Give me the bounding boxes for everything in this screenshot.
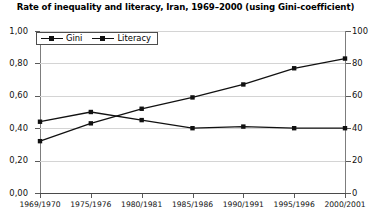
chart-container: Rate of inequality and literacy, Iran, 1… [0, 0, 371, 214]
y-axis-right-tick-mark [346, 31, 351, 32]
y-axis-left-tick-label: 1,00 [9, 26, 28, 36]
data-point-marker [38, 120, 42, 124]
y-axis-left-tick-label: 0,40 [9, 123, 28, 133]
legend-line-marker-icon [92, 35, 114, 42]
x-axis-tick-mark [40, 194, 41, 198]
y-axis-left-tick-label: 0,60 [9, 90, 28, 100]
x-axis-tick-mark [345, 194, 346, 198]
y-axis-right-tick-mark [346, 161, 351, 162]
legend-line-marker-icon [41, 35, 63, 42]
x-axis-tick-mark [142, 194, 143, 198]
data-point-marker [89, 110, 93, 114]
y-axis-right-tick-label: 80 [352, 58, 363, 68]
y-axis-right-line [345, 31, 346, 194]
data-point-marker [139, 107, 143, 111]
y-axis-right-tick-label: 100 [352, 26, 368, 36]
data-point-marker [139, 118, 143, 122]
y-axis-left-tick-label: 0,20 [9, 155, 28, 165]
data-point-marker [292, 126, 296, 130]
data-point-marker [292, 66, 296, 70]
x-axis-tick-label: 1975/1976 [70, 200, 111, 209]
y-axis-right-tick-label: 40 [352, 123, 363, 133]
x-axis-tick-label: 1980/1981 [121, 200, 162, 209]
plot-area [40, 31, 345, 193]
chart-title: Rate of inequality and literacy, Iran, 1… [0, 2, 371, 12]
data-point-marker [241, 82, 245, 86]
series-lines [40, 31, 345, 193]
x-axis-tick-label: 1990/1991 [223, 200, 264, 209]
y-axis-right-tick-mark [346, 96, 351, 97]
x-axis-tick-mark [243, 194, 244, 198]
x-axis-tick-label: 1995/1996 [274, 200, 315, 209]
x-axis-tick-mark [294, 194, 295, 198]
y-axis-right-tick-label: 20 [352, 155, 363, 165]
y-axis-right-tick-label: 60 [352, 90, 363, 100]
x-axis-tick-label: 1969/1970 [19, 200, 60, 209]
data-point-marker [241, 124, 245, 128]
data-point-marker [190, 126, 194, 130]
data-point-marker [343, 126, 347, 130]
y-axis-left-tick-label: 0,00 [9, 188, 28, 198]
data-point-marker [38, 139, 42, 143]
x-axis-tick-mark [91, 194, 92, 198]
y-axis-left-tick-label: 0,80 [9, 58, 28, 68]
y-axis-right-tick-mark [346, 193, 351, 194]
x-axis-tick-label: 2000/2001 [324, 200, 365, 209]
legend-item-literacy[interactable]: Literacy [92, 34, 151, 42]
legend-label-gini: Gini [66, 34, 82, 42]
legend-item-gini[interactable]: Gini [41, 34, 82, 42]
data-point-marker [343, 56, 347, 60]
x-axis-tick-mark [193, 194, 194, 198]
y-axis-right-tick-mark [346, 63, 351, 64]
chart-legend: Gini Literacy [36, 32, 158, 45]
data-point-marker [89, 121, 93, 125]
data-point-marker [190, 95, 194, 99]
x-axis-tick-label: 1985/1986 [172, 200, 213, 209]
y-axis-right-tick-label: 0 [352, 188, 357, 198]
legend-label-literacy: Literacy [117, 34, 151, 42]
